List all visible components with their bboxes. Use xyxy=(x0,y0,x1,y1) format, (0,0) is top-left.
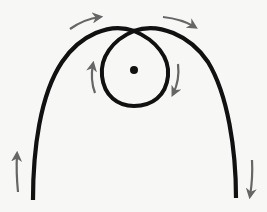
arrow-bottom-left xyxy=(17,154,18,192)
center-point xyxy=(130,66,138,74)
outer-curve xyxy=(33,28,236,200)
arrow-loop-left xyxy=(92,64,95,93)
diagram-canvas xyxy=(0,0,267,212)
arrow-top-left xyxy=(70,17,100,29)
arrow-loop-right xyxy=(173,64,178,94)
diagram-svg xyxy=(0,0,267,212)
arrow-bottom-right xyxy=(250,160,252,196)
arrow-top-right xyxy=(163,17,195,27)
